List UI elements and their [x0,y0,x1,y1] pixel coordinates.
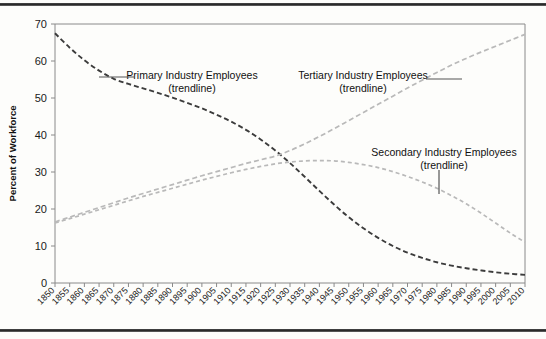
series-line-3 [55,161,525,243]
annotation-label-primary-line: Secondary Industry Employees [371,146,516,158]
secondary-annotation: Secondary Industry Employees(trendline) [371,146,516,194]
annotation-label-primary-line: Tertiary Industry Employees [298,69,428,81]
annotation-label-secondary-line: (trendline) [420,159,467,171]
figure-page: 010203040506070 185018551860186518701875… [0,0,546,339]
y-tick-label: 10 [35,240,47,252]
y-tick-label: 70 [35,18,47,30]
annotation-label-secondary-line: (trendline) [168,82,215,94]
y-axis: 010203040506070 [35,18,55,289]
line-chart: 010203040506070 185018551860186518701875… [0,0,546,339]
y-axis-title: Percent of Workforce [7,106,18,202]
y-tick-label: 50 [35,92,47,104]
y-tick-label: 40 [35,129,47,141]
series-line-2 [55,34,525,222]
x-tick-label: 2010 [505,285,526,306]
axis-title-group: Percent of Workforce [7,106,18,202]
y-tick-label: 0 [41,277,47,289]
x-axis: 1850185518601865187018751880188518901895… [35,283,526,307]
annotation-label-primary-line: Primary Industry Employees [126,69,257,81]
y-tick-label: 30 [35,166,47,178]
y-tick-label: 20 [35,203,47,215]
annotation-group: Primary Industry Employees(trendline)Ter… [99,69,517,194]
y-tick-label: 60 [35,55,47,67]
annotation-label-secondary-line: (trendline) [339,82,386,94]
